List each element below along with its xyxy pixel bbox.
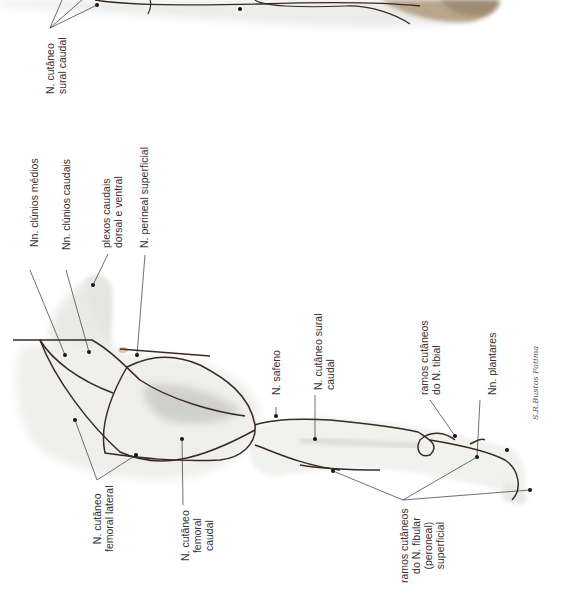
label-n-cutaneo-sural-caudal: N. cutâneo sural caudal <box>312 314 336 390</box>
label-n-cutaneo-sural-caudal-top: N. cutâneo sural caudal <box>44 37 68 94</box>
label-nn-clunios-medios: Nn. clúnios médios <box>28 158 40 247</box>
label-n-safeno: N. safeno <box>270 350 282 395</box>
label-ramos-cutaneos-n-tibial: ramos cutâneos do N. tibial <box>418 320 442 395</box>
label-n-cutaneo-femoral-caudal: N. cutâneo femoral caudal <box>179 510 215 561</box>
top-limb-illustration <box>0 0 500 28</box>
label-ramos-cutaneos-n-fibular: ramos cutâneos do N. fibular (peroneal) … <box>398 508 446 583</box>
label-n-perineal-superficial: N. perineal superficial <box>138 147 150 248</box>
label-plexos-caudais: plexos caudais dorsal e ventral <box>100 176 124 248</box>
label-nn-plantares: Nn. plantares <box>486 333 498 395</box>
artist-signature: S.R.Bustos Fatima <box>531 346 540 420</box>
label-nn-clunios-caudais: Nn. clúnios caudais <box>60 159 72 250</box>
nerve-illustration <box>0 0 564 599</box>
label-n-cutaneo-femoral-lateral: N. cutâneo femoral lateral <box>91 485 115 552</box>
